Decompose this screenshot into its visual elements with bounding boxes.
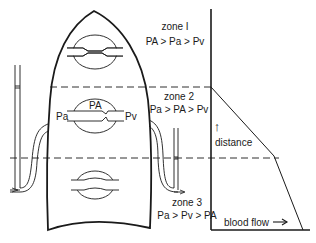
zone-2-relation: Pa > PA > Pv [150,104,209,115]
zone-2-alveolar-label: PA [89,100,102,111]
blood-flow-curve [211,87,303,230]
blood-flow-label: blood flow [224,217,270,228]
zone-2-venous-label: Pv [125,111,137,122]
distance-label: distance [215,137,253,148]
zone-3-capillary [70,171,120,199]
arterial-manometer-tube [10,65,49,192]
zone-1-capillary [66,35,124,69]
zone-1-title: zone I [161,21,188,32]
distance-arrow-icon: ↑ [214,119,221,134]
zone-2-title: zone 2 [164,91,194,102]
venous-manometer-tube [149,120,185,194]
blood-flow-arrow-icon [273,219,287,225]
zone-2-arterial-label: Pa [56,111,69,122]
lung-zones-diagram: PA Pa Pv zone I PA > Pa > Pv zone 2 Pa >… [0,0,316,243]
zone-1-relation: PA > Pa > Pv [146,36,205,47]
zone-3-title: zone 3 [172,197,202,208]
zone-3-relation: Pa > Pv > PA [157,210,217,221]
